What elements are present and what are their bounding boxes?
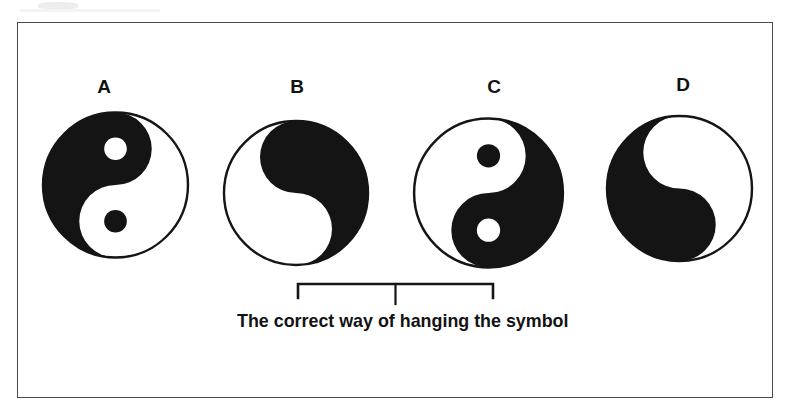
- dot-black: [668, 213, 691, 236]
- scan-artifact-smudge: [38, 2, 78, 9]
- yinyang-symbol-d: [604, 104, 755, 273]
- option-label-d: D: [668, 75, 698, 94]
- bracket-caption: The correct way of hanging the symbol: [237, 310, 568, 331]
- figure-page: A B C: [0, 0, 788, 417]
- yinyang-svg-b: [221, 107, 371, 279]
- upper-dot-white: [104, 137, 127, 160]
- option-label-b: B: [282, 77, 312, 96]
- option-label-c: C: [479, 77, 509, 96]
- option-label-a: A: [89, 77, 119, 96]
- lower-dot-white: [285, 218, 308, 241]
- dot-white: [477, 219, 500, 242]
- yinyang-svg-d: [604, 104, 755, 273]
- yinyang-symbol-b: [221, 107, 371, 279]
- dot-white: [668, 141, 691, 164]
- yinyang-svg-c: [411, 107, 566, 279]
- dot-black: [477, 144, 500, 167]
- yinyang-svg-a: [40, 101, 191, 269]
- yinyang-symbol-a: [40, 101, 191, 269]
- lower-dot-black: [104, 210, 127, 233]
- upper-dot-black: [285, 146, 308, 169]
- yinyang-symbol-c: [411, 107, 566, 279]
- scan-artifact-line: [20, 9, 160, 12]
